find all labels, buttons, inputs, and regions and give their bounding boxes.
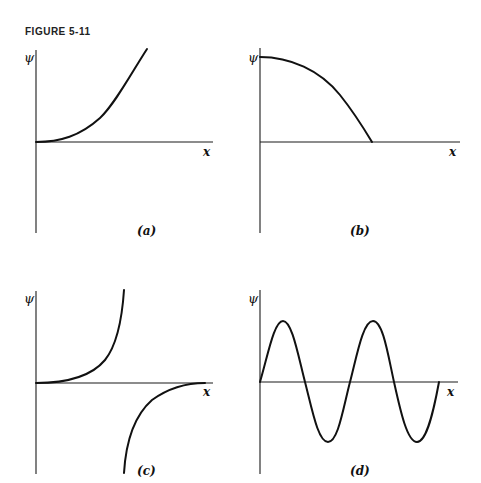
x-axis-label: x: [202, 385, 211, 399]
x-axis-label: x: [446, 385, 455, 399]
upper-branch-curve: [36, 290, 124, 383]
panel-a: ψ x (a): [24, 49, 213, 238]
figure-canvas: ψ x (a) ψ x (b) ψ x (c) ψ x (d): [0, 0, 481, 483]
y-axis-label: ψ: [24, 50, 35, 65]
x-axis-label: x: [448, 145, 457, 159]
panel-label: (b): [350, 224, 370, 238]
y-axis-label: ψ: [248, 291, 259, 306]
panel-b: ψ x (b): [248, 48, 460, 238]
lower-branch-curve: [124, 383, 205, 473]
x-axis-label: x: [202, 145, 211, 159]
y-axis-label: ψ: [24, 291, 35, 306]
curve: [36, 49, 147, 142]
panel-label: (c): [137, 464, 156, 478]
panel-d: ψ x (d): [248, 290, 458, 478]
y-axis-label: ψ: [248, 50, 259, 65]
curve: [260, 57, 372, 142]
panel-label: (a): [137, 224, 156, 238]
panel-label: (d): [350, 464, 370, 478]
panel-c: ψ x (c): [24, 290, 213, 478]
